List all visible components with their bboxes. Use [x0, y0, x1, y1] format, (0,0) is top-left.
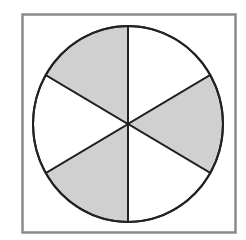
fraction-diagram: [0, 0, 246, 240]
